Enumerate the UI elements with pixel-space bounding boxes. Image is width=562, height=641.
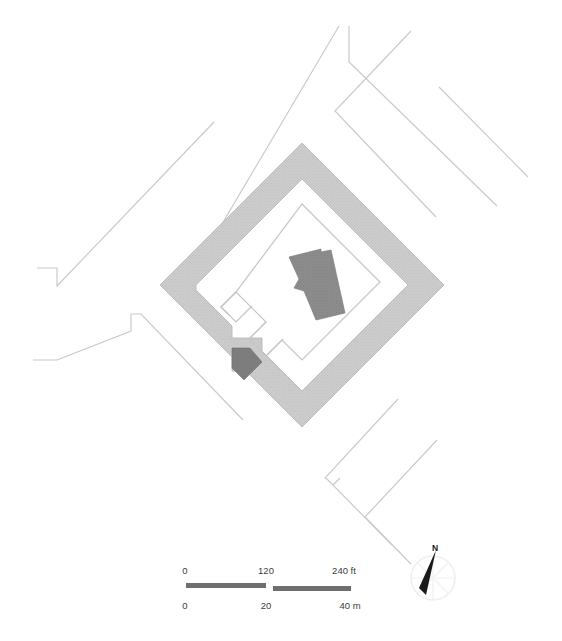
main-building-shape <box>289 249 345 320</box>
north-arrow: N <box>411 543 455 600</box>
site-plan-canvas: 0 120 240 ft 0 20 40 m N <box>0 0 562 641</box>
scalebar-m-tick-1: 20 <box>261 600 272 611</box>
road-southeast <box>325 399 398 545</box>
inner-enclosure-west-notch <box>221 292 252 322</box>
scalebar-ft-tick-2: 240 ft <box>332 565 356 576</box>
scalebar-segment-ft <box>186 583 266 588</box>
north-arrow-label: N <box>432 543 438 553</box>
scalebar-m-tick-2: 40 m <box>339 600 360 611</box>
site-plan-figure: 0 120 240 ft 0 20 40 m N <box>0 0 562 641</box>
road-southeast-outer <box>365 440 437 564</box>
road-northeast-outer <box>439 87 528 177</box>
road-northeast <box>335 31 436 217</box>
main-building <box>289 249 345 320</box>
road-network <box>33 26 528 564</box>
road-south <box>333 478 340 485</box>
scalebar-segment-m <box>273 586 351 591</box>
scalebar-m-tick-0: 0 <box>182 600 187 611</box>
scale-bar: 0 120 240 ft 0 20 40 m <box>182 565 360 611</box>
scalebar-ft-tick-1: 120 <box>258 565 274 576</box>
road-north-edge <box>349 26 497 206</box>
scalebar-ft-tick-0: 0 <box>182 565 187 576</box>
